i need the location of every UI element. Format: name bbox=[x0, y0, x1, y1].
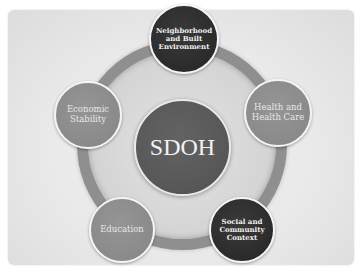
center-node-sdoh: SDOH bbox=[134, 99, 231, 196]
sdoh-diagram: SDOH Neighborhood and Built Environment … bbox=[0, 0, 361, 272]
node-economic-stability: Economic Stability bbox=[54, 81, 122, 149]
node-health-and-health-care: Health and Health Care bbox=[244, 79, 312, 147]
node-label-line: Context bbox=[219, 234, 264, 242]
node-neighborhood-built-environment: Neighborhood and Built Environment bbox=[149, 4, 219, 74]
node-label-line: Education bbox=[100, 225, 144, 235]
node-social-and-community-context: Social and Community Context bbox=[209, 197, 275, 263]
node-label-line: Environment bbox=[156, 43, 212, 51]
node-education: Education bbox=[89, 197, 155, 263]
center-label: SDOH bbox=[150, 134, 215, 161]
node-label-line: Health Care bbox=[252, 113, 305, 123]
node-label-line: Stability bbox=[67, 115, 109, 125]
